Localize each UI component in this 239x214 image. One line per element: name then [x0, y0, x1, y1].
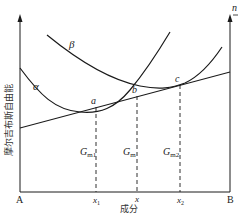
- beta-label: β: [68, 38, 75, 50]
- y-axis-title: 摩尔吉布斯自由能: [3, 84, 14, 156]
- top-right-label: n: [232, 2, 237, 13]
- gm2-label: Gm2: [163, 146, 180, 159]
- x-axis-title: 成分: [120, 203, 138, 214]
- gibbs-energy-diagram: n α β a b c Gm1 Gm Gm2 x1 x x2 A B 成分 摩尔…: [0, 0, 239, 214]
- point-b-label: b: [132, 84, 137, 95]
- point-c-label: c: [175, 73, 180, 84]
- x1-tick-label: x1: [92, 195, 100, 206]
- b-end-label: B: [227, 194, 234, 205]
- a-end-label: A: [16, 194, 24, 205]
- gm1-label: Gm1: [80, 146, 97, 159]
- x2-tick-label: x2: [176, 195, 184, 206]
- right-axis-arrow-icon: [228, 14, 233, 22]
- y-axis-arrow-icon: [18, 14, 23, 22]
- point-a-label: a: [91, 95, 96, 106]
- alpha-label: α: [33, 80, 39, 92]
- common-tangent-line: [20, 72, 230, 128]
- gm-label: Gm: [123, 146, 136, 159]
- x-tick-label: x: [134, 194, 139, 204]
